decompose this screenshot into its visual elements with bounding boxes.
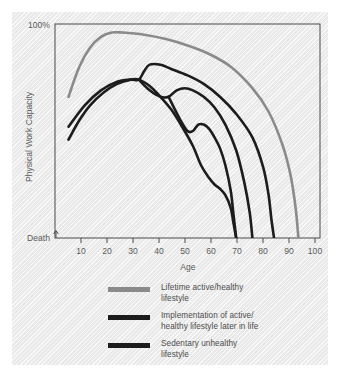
- legend-item: Sedentary unhealthy lifestyle: [108, 339, 324, 360]
- legend-label-implementation: Implementation of active/ healthy lifest…: [161, 311, 258, 332]
- legend-item: Implementation of active/ healthy lifest…: [108, 311, 324, 332]
- x-tick-label: 100: [308, 246, 323, 256]
- x-tick-label: 80: [258, 246, 268, 256]
- legend-swatch-lifetime-active: [108, 287, 150, 292]
- y-axis-bottom-label: Death: [27, 233, 50, 243]
- x-axis-tick-labels: 10 20 30 40 50 60 70 80 90 100: [76, 246, 322, 256]
- chart-plot-area: 100% Death Physical Work Capacity: [12, 12, 328, 280]
- data-curve: [139, 80, 253, 238]
- data-curve: [69, 32, 299, 238]
- chart-svg: 100% Death Physical Work Capacity: [12, 12, 328, 280]
- data-curves-group: [69, 32, 299, 238]
- legend-item: Lifetime active/healthy lifestyle: [108, 283, 324, 304]
- legend-label-line2: lifestyle: [161, 350, 237, 361]
- legend-label-line1: Sedentary unhealthy: [161, 339, 237, 350]
- legend-label-sedentary: Sedentary unhealthy lifestyle: [161, 339, 237, 360]
- legend-label-line2: healthy lifestyle later in life: [161, 322, 258, 333]
- legend-label-lifetime-active: Lifetime active/healthy lifestyle: [161, 283, 243, 304]
- death-arrow-icon: [54, 231, 59, 238]
- x-tick-label: 50: [180, 246, 190, 256]
- x-tick-label: 40: [154, 246, 164, 256]
- x-tick-label: 30: [128, 246, 138, 256]
- x-tick-label: 90: [284, 246, 294, 256]
- data-curve: [69, 64, 275, 238]
- legend-swatch-sedentary: [108, 343, 150, 348]
- x-tick-label: 10: [76, 246, 86, 256]
- legend-label-line1: Lifetime active/healthy: [161, 283, 243, 294]
- y-axis-title: Physical Work Capacity: [24, 91, 34, 182]
- y-axis-top-label: 100%: [28, 20, 50, 30]
- figure-container: 100% Death Physical Work Capacity: [0, 0, 340, 379]
- x-axis-title: Age: [180, 262, 196, 272]
- x-axis-ticks: [81, 238, 315, 243]
- legend-label-line1: Implementation of active/: [161, 311, 258, 322]
- chart-legend: Lifetime active/healthy lifestyle Implem…: [108, 283, 324, 367]
- legend-swatch-implementation: [108, 315, 150, 320]
- chart-panel: 100% Death Physical Work Capacity: [12, 12, 328, 365]
- legend-label-line2: lifestyle: [161, 294, 243, 305]
- x-tick-label: 70: [232, 246, 242, 256]
- x-tick-label: 20: [102, 246, 112, 256]
- x-tick-label: 60: [206, 246, 216, 256]
